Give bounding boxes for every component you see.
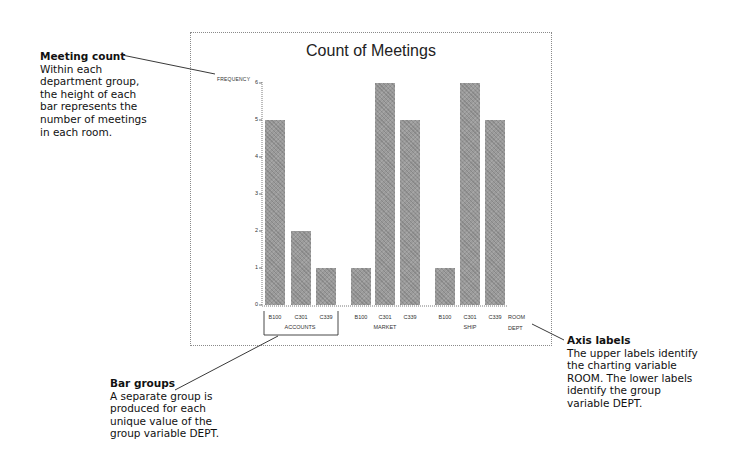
leader-axis-labels <box>532 324 564 340</box>
leader-bar-groups <box>175 336 278 390</box>
accounts-group-bracket <box>264 311 338 335</box>
chart-lines <box>0 0 733 474</box>
y-axis-line <box>262 82 508 306</box>
y-axis-ticks <box>259 83 262 305</box>
leader-meeting-count <box>122 55 215 74</box>
